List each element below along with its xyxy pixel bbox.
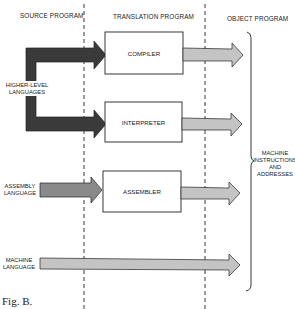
translation-diagram: SOURCE PROGRAM TRANSLATION PROGRAM OBJEC… [0,0,295,309]
interpreter-label: INTERPRETER [122,119,166,126]
output-label-line1: MACHINE [262,150,289,156]
output-label-line2: INSTRUCTIONS [253,157,295,163]
header-source-program: SOURCE PROGRAM [20,12,84,19]
assembly-label-line2: LANGUAGE [4,190,36,196]
interpreter-output-arrow [182,113,242,136]
compiler-label: COMPILER [128,50,161,57]
header-object-program: OBJECT PROGRAM [227,15,288,22]
output-label-line3: AND [269,164,281,170]
higher-level-label-line2: LANGUAGES [9,89,45,95]
assembly-input-arrow [40,177,102,203]
machine-label-line2: LANGUAGE [3,264,35,270]
assembler-output-arrow [181,182,240,205]
assembler-label: ASSEMBLER [123,188,161,195]
figure-caption: Fig. B. [2,295,33,307]
output-label-line4: ADDRESSES [257,171,293,177]
machine-language-arrow [40,254,240,276]
compiler-output-arrow [183,43,243,67]
higher-level-label-line1: HIGHER-LEVEL [6,82,49,88]
machine-label-line1: MACHINE [6,257,33,263]
header-translation-program: TRANSLATION PROGRAM [113,13,194,20]
assembly-label-line1: ASSEMBLY [5,183,36,189]
